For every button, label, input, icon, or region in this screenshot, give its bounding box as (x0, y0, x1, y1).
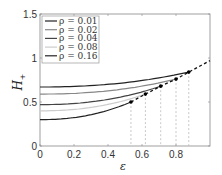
endpoint-marker (129, 100, 133, 104)
plot-area: 00.20.40.60.800.511.5ρ = 0.01ρ = 0.02ρ =… (11, 9, 210, 173)
series-curve (40, 72, 189, 87)
endpoint-marker (144, 92, 148, 96)
envelope-dashed-line (131, 61, 210, 102)
legend-label: ρ = 0.16 (59, 51, 98, 61)
x-tick-label: 0.6 (135, 149, 149, 160)
x-tick-label: 0.8 (169, 149, 183, 160)
endpoint-marker (174, 77, 178, 81)
y-tick-label: 0.5 (23, 97, 37, 108)
y-tick-label: 1 (31, 53, 37, 64)
line-chart: 00.20.40.60.800.511.5ρ = 0.01ρ = 0.02ρ =… (0, 0, 222, 175)
x-tick-label: 0 (37, 149, 43, 160)
x-tick-label: 0.2 (67, 149, 81, 160)
x-axis-label: ε (120, 160, 126, 173)
y-tick-label: 1.5 (23, 9, 37, 20)
x-tick-label: 0.4 (101, 149, 115, 160)
y-tick-label: 0 (31, 141, 37, 152)
endpoint-marker (159, 84, 163, 88)
y-axis-label: H+ (11, 73, 27, 91)
endpoint-marker (187, 70, 191, 74)
